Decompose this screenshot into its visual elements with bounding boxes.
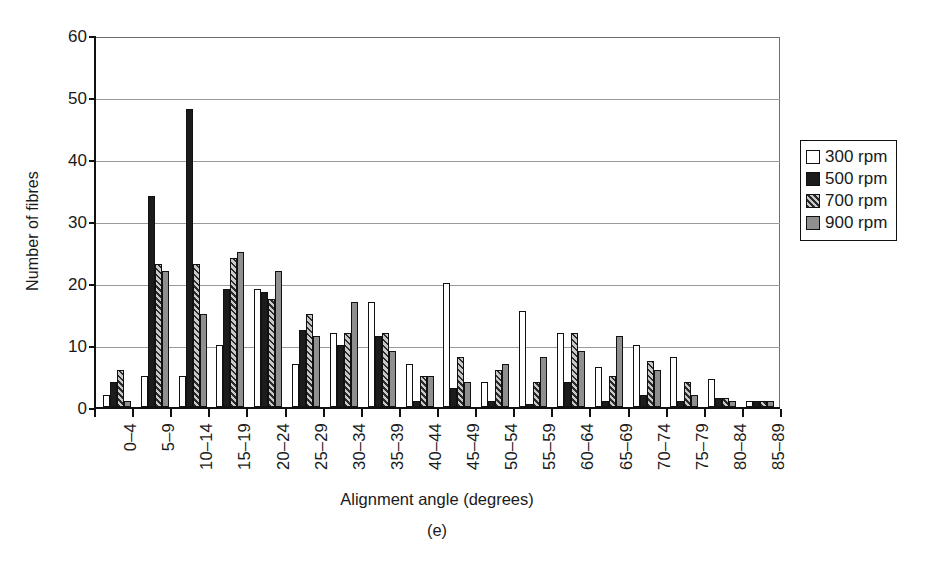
bar xyxy=(179,376,186,407)
x-tick-label: 0–4 xyxy=(121,423,140,451)
bar-group xyxy=(665,37,703,407)
bar xyxy=(488,401,495,407)
bar xyxy=(670,357,677,407)
x-tick-mark xyxy=(475,409,477,417)
bar xyxy=(254,289,261,407)
x-tick-mark xyxy=(704,409,706,417)
legend-swatch-icon xyxy=(806,194,820,208)
bar xyxy=(237,252,244,407)
x-tick-mark xyxy=(132,409,134,417)
bar xyxy=(344,333,351,407)
bar xyxy=(495,370,502,407)
x-tick-mark xyxy=(513,409,515,417)
bar xyxy=(124,401,131,407)
bar xyxy=(337,345,344,407)
x-tick-mark xyxy=(628,409,630,417)
bar xyxy=(162,271,169,407)
y-tick-label: 50 xyxy=(68,89,96,109)
x-tick-mark xyxy=(170,409,172,417)
x-tick-mark xyxy=(323,409,325,417)
bar xyxy=(110,382,117,407)
bar xyxy=(616,336,623,407)
bar-group xyxy=(438,37,476,407)
bar xyxy=(375,336,382,407)
bar xyxy=(450,388,457,407)
bar xyxy=(760,401,767,407)
legend-swatch-icon xyxy=(806,216,820,230)
legend-label: 500 rpm xyxy=(825,169,887,189)
bar-group xyxy=(211,37,249,407)
x-tick-label: 5–9 xyxy=(159,423,178,451)
x-tick-label: 45–49 xyxy=(464,423,483,470)
legend-item[interactable]: 700 rpm xyxy=(806,190,887,212)
legend-item[interactable]: 500 rpm xyxy=(806,168,887,190)
x-tick-label: 80–84 xyxy=(731,423,750,470)
bar-group xyxy=(401,37,439,407)
bar xyxy=(722,398,729,407)
bar xyxy=(389,351,396,407)
legend-item[interactable]: 300 rpm xyxy=(806,146,887,168)
bar xyxy=(413,401,420,407)
bar xyxy=(330,333,337,407)
x-tick-label: 55–59 xyxy=(540,423,559,470)
x-tick-label: 25–29 xyxy=(312,423,331,470)
bar xyxy=(502,364,509,407)
bar xyxy=(382,333,389,407)
x-tick-mark xyxy=(94,409,96,417)
bar xyxy=(481,382,488,407)
bar xyxy=(708,379,715,407)
x-tick-mark xyxy=(246,409,248,417)
x-tick-mark xyxy=(666,409,668,417)
x-tick-label: 15–19 xyxy=(235,423,254,470)
legend-item[interactable]: 900 rpm xyxy=(806,212,887,234)
bar xyxy=(268,299,275,408)
legend-swatch-icon xyxy=(806,150,820,164)
bar xyxy=(200,314,207,407)
bar xyxy=(691,395,698,407)
bar xyxy=(609,376,616,407)
x-tick-label: 35–39 xyxy=(388,423,407,470)
bar xyxy=(368,302,375,407)
y-tick-label: 30 xyxy=(68,213,96,233)
legend-label: 900 rpm xyxy=(825,213,887,233)
x-tick-label: 75–79 xyxy=(693,423,712,470)
bar xyxy=(578,351,585,407)
bar xyxy=(746,401,753,407)
bar-group xyxy=(552,37,590,407)
bar xyxy=(557,333,564,407)
legend-label: 300 rpm xyxy=(825,147,887,167)
x-tick-mark xyxy=(437,409,439,417)
x-tick-mark xyxy=(361,409,363,417)
x-tick-label: 10–14 xyxy=(197,423,216,470)
bar xyxy=(564,382,571,407)
plot-area: 0102030405060 xyxy=(94,37,780,409)
bar xyxy=(261,292,268,407)
bar xyxy=(540,357,547,407)
bar-group xyxy=(741,37,779,407)
bar xyxy=(420,376,427,407)
x-tick-label: 65–69 xyxy=(617,423,636,470)
bar xyxy=(117,370,124,407)
bar-group xyxy=(325,37,363,407)
bar xyxy=(141,376,148,407)
bar-group xyxy=(98,37,136,407)
y-tick-label: 10 xyxy=(68,337,96,357)
x-tick-label: 40–44 xyxy=(426,423,445,470)
bar xyxy=(103,395,110,407)
legend-swatch-icon xyxy=(806,172,820,186)
bar xyxy=(223,289,230,407)
bar xyxy=(647,361,654,408)
panel-label: (e) xyxy=(94,521,780,540)
plot-right-border xyxy=(779,37,780,407)
bar-group xyxy=(174,37,212,407)
bar xyxy=(640,395,647,407)
bar-group xyxy=(249,37,287,407)
bar xyxy=(406,364,413,407)
bar xyxy=(427,376,434,407)
bar xyxy=(464,382,471,407)
bar xyxy=(275,271,282,407)
x-tick-label: 30–34 xyxy=(350,423,369,470)
x-tick-mark xyxy=(742,409,744,417)
x-tick-mark xyxy=(780,409,782,417)
bar-group xyxy=(363,37,401,407)
